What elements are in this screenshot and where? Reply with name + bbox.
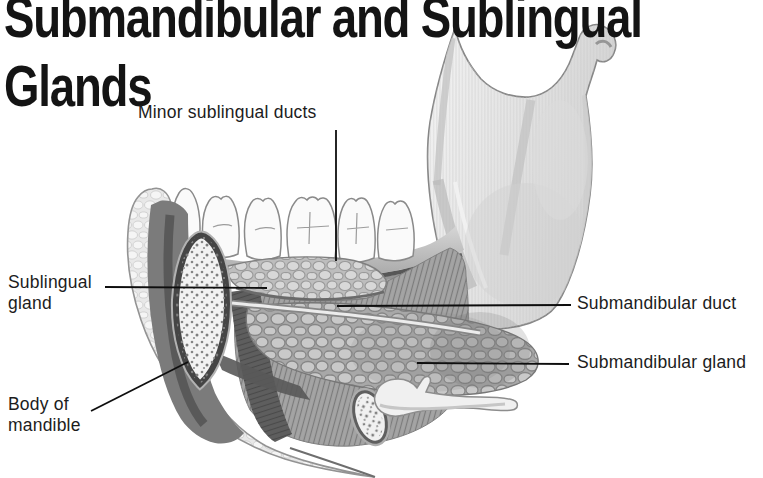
label-minor-sublingual-ducts: Minor sublingual ducts	[138, 102, 317, 123]
label-body-of-mandible: Body of mandible	[8, 394, 100, 436]
leader-line-submandibular-duct	[337, 305, 571, 306]
page-title-line2: Glands	[4, 52, 642, 121]
page-title: Submandibular and Sublingual Glands	[4, 0, 642, 121]
label-submandibular-duct: Submandibular duct	[577, 293, 736, 314]
label-sublingual-gland: Sublingual gland	[8, 272, 104, 314]
mandible-cut-section	[176, 236, 227, 384]
label-submandibular-gland: Submandibular gland	[577, 352, 746, 373]
leader-line-submandibular-gland	[417, 363, 569, 364]
figure-page: Submandibular and Sublingual Glands Mino…	[0, 0, 763, 478]
leader-line-sublingual-gland	[105, 287, 267, 288]
page-title-line1: Submandibular and Sublingual	[4, 0, 642, 52]
